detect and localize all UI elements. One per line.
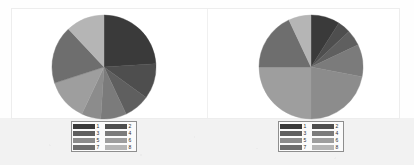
legend-entry[interactable]: 7 bbox=[280, 144, 310, 150]
legend-entry[interactable]: 5 bbox=[280, 137, 310, 143]
legend-swatch bbox=[312, 145, 334, 150]
legend-entry[interactable]: 6 bbox=[312, 137, 342, 143]
legend-label: 8 bbox=[129, 145, 135, 150]
pie-chart-right[interactable] bbox=[258, 14, 364, 120]
legend-swatch bbox=[105, 131, 127, 136]
pie-chart-left[interactable] bbox=[51, 14, 157, 120]
legend-label: 6 bbox=[129, 138, 135, 143]
legend-swatch bbox=[280, 145, 302, 150]
figure-canvas: 12345678 12345678 bbox=[0, 0, 414, 165]
legend-label: 6 bbox=[336, 138, 342, 143]
legend-swatch bbox=[73, 145, 95, 150]
pie-chart-left-svg bbox=[51, 14, 157, 120]
legend-swatch bbox=[280, 138, 302, 143]
legend-entry[interactable]: 8 bbox=[105, 144, 135, 150]
legend-swatch bbox=[73, 138, 95, 143]
legend-entry[interactable]: 7 bbox=[73, 144, 103, 150]
chart-cell-right: 12345678 bbox=[207, 0, 414, 165]
legend-swatch bbox=[312, 138, 334, 143]
legend-swatch bbox=[280, 131, 302, 136]
legend-label: 8 bbox=[336, 145, 342, 150]
legend-label: 5 bbox=[304, 138, 310, 143]
legend-entry[interactable]: 2 bbox=[105, 123, 135, 129]
legend-label: 2 bbox=[129, 124, 135, 129]
legend-entry[interactable]: 5 bbox=[73, 137, 103, 143]
legend-label: 7 bbox=[304, 145, 310, 150]
legend-label: 3 bbox=[304, 131, 310, 136]
legend-label: 4 bbox=[129, 131, 135, 136]
legend-label: 4 bbox=[336, 131, 342, 136]
pie-slice[interactable] bbox=[259, 67, 311, 119]
legend-left-grid: 12345678 bbox=[73, 123, 135, 150]
legend-swatch bbox=[312, 124, 334, 129]
legend-entry[interactable]: 1 bbox=[73, 123, 103, 129]
legend-right-grid: 12345678 bbox=[280, 123, 342, 150]
legend-entry[interactable]: 8 bbox=[312, 144, 342, 150]
legend-entry[interactable]: 2 bbox=[312, 123, 342, 129]
legend-left: 12345678 bbox=[71, 121, 137, 152]
legend-label: 3 bbox=[97, 131, 103, 136]
legend-entry[interactable]: 3 bbox=[73, 130, 103, 136]
legend-entry[interactable]: 6 bbox=[105, 137, 135, 143]
legend-entry[interactable]: 1 bbox=[280, 123, 310, 129]
legend-swatch bbox=[73, 131, 95, 136]
legend-swatch bbox=[105, 124, 127, 129]
pie-chart-right-svg bbox=[258, 14, 364, 120]
legend-entry[interactable]: 3 bbox=[280, 130, 310, 136]
legend-swatch bbox=[280, 124, 302, 129]
legend-entry[interactable]: 4 bbox=[105, 130, 135, 136]
legend-swatch bbox=[312, 131, 334, 136]
legend-label: 7 bbox=[97, 145, 103, 150]
pie-slice[interactable] bbox=[104, 15, 156, 67]
legend-swatch bbox=[73, 124, 95, 129]
legend-label: 1 bbox=[97, 124, 103, 129]
chart-cell-left: 12345678 bbox=[0, 0, 207, 165]
legend-swatch bbox=[105, 138, 127, 143]
legend-label: 2 bbox=[336, 124, 342, 129]
legend-swatch bbox=[105, 145, 127, 150]
legend-entry[interactable]: 4 bbox=[312, 130, 342, 136]
legend-label: 5 bbox=[97, 138, 103, 143]
legend-right: 12345678 bbox=[278, 121, 344, 152]
legend-label: 1 bbox=[304, 124, 310, 129]
